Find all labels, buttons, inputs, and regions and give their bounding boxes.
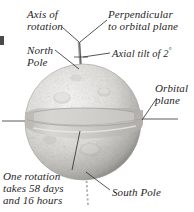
label-axial-tilt-text: Axial tilt of 2	[112, 48, 169, 59]
label-south-pole: South Pole	[112, 186, 161, 198]
axial-tilt-figure: Axis of rotation Perpendicular to orbita…	[0, 0, 194, 212]
orbital-plane-ring-icon	[25, 108, 143, 139]
label-axis-of-rotation: Axis of rotation	[27, 8, 63, 32]
label-axial-tilt: Axial tilt of 2°	[112, 45, 172, 59]
label-orbital-plane: Orbital plane	[155, 82, 188, 106]
leader-axial-tilt	[83, 53, 110, 57]
label-north-pole: North Pole	[27, 44, 53, 68]
degree-symbol-icon: °	[169, 46, 172, 54]
label-perpendicular-to-orbital-plane: Perpendicular to orbital plane	[108, 8, 178, 32]
leader-perpendicular	[80, 20, 107, 42]
label-rotation-period: One rotation takes 58 days and 16 hours	[3, 170, 64, 206]
leader-axis-of-rotation	[62, 27, 79, 42]
